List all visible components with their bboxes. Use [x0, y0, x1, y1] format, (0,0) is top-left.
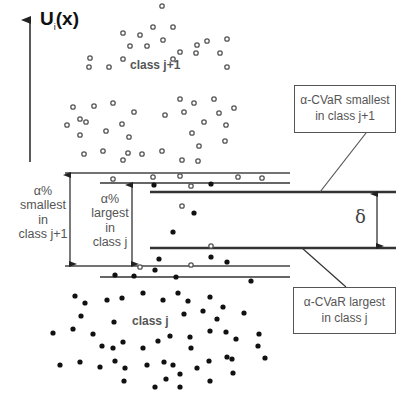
- open-marker: [126, 151, 130, 155]
- filled-marker: [229, 356, 234, 361]
- class-j-label: class j: [132, 314, 169, 328]
- open-marker: [232, 106, 236, 110]
- open-marker: [138, 265, 142, 269]
- filled-marker: [78, 313, 83, 318]
- open-marker: [138, 33, 142, 37]
- filled-marker: [230, 370, 235, 375]
- filled-marker: [72, 293, 77, 298]
- open-marker: [217, 111, 221, 115]
- filled-marker: [151, 182, 156, 187]
- open-marker: [196, 159, 200, 163]
- filled-marker: [233, 336, 238, 341]
- open-marker: [104, 129, 108, 133]
- open-marker: [224, 123, 228, 127]
- open-marker: [111, 101, 115, 105]
- filled-marker: [214, 316, 219, 321]
- filled-marker: [160, 297, 165, 302]
- open-marker: [87, 65, 91, 69]
- filled-marker: [131, 273, 136, 278]
- open-marker: [161, 38, 165, 42]
- open-marker: [128, 44, 132, 48]
- open-marker: [218, 51, 222, 55]
- delta-label: δ: [355, 206, 366, 227]
- filled-marker: [155, 338, 160, 343]
- open-marker: [225, 65, 229, 69]
- open-marker: [195, 43, 199, 47]
- open-marker: [180, 204, 184, 208]
- filled-marker: [208, 181, 213, 186]
- filled-marker: [70, 326, 75, 331]
- open-marker: [78, 133, 82, 137]
- filled-marker: [187, 334, 192, 339]
- open-marker: [120, 122, 124, 126]
- filled-marker: [177, 371, 182, 376]
- filled-marker: [248, 278, 253, 283]
- bottom-box-connector: [302, 248, 346, 287]
- filled-marker: [170, 362, 175, 367]
- open-marker: [189, 263, 193, 267]
- open-marker: [160, 149, 164, 153]
- open-marker: [140, 152, 144, 156]
- open-marker: [127, 135, 131, 139]
- filled-marker: [177, 384, 182, 389]
- open-marker: [121, 158, 125, 162]
- filled-marker: [175, 290, 180, 295]
- filled-marker: [223, 329, 228, 334]
- filled-marker: [144, 362, 149, 367]
- filled-marker: [207, 378, 212, 383]
- filled-marker: [121, 378, 126, 383]
- open-marker: [171, 25, 175, 29]
- outer-span-label: α% smallest in class j+1: [16, 184, 70, 242]
- inner-span-label: α% largest in class j: [88, 192, 132, 250]
- filled-marker: [104, 297, 109, 302]
- filled-marker: [163, 376, 168, 381]
- filled-marker: [112, 358, 117, 363]
- open-marker: [82, 152, 86, 156]
- filled-marker: [57, 362, 62, 367]
- filled-marker: [110, 345, 115, 350]
- open-marker: [111, 177, 115, 181]
- open-marker: [212, 97, 216, 101]
- cvar-largest-box: α-CVaR largest in class j: [293, 287, 396, 334]
- open-marker: [209, 244, 213, 248]
- filled-marker: [262, 355, 267, 360]
- filled-marker: [255, 343, 260, 348]
- open-marker: [205, 39, 209, 43]
- filled-marker: [82, 300, 87, 305]
- open-marker: [178, 50, 182, 54]
- class-j-points: [50, 181, 267, 389]
- filled-marker: [97, 364, 102, 369]
- filled-marker: [161, 359, 166, 364]
- cvar-smallest-box: α-CVaR smallest in class j+1: [294, 85, 396, 133]
- open-marker: [78, 117, 82, 121]
- filled-marker: [140, 290, 145, 295]
- filled-marker: [173, 274, 178, 279]
- filled-marker: [170, 229, 175, 234]
- open-marker: [202, 120, 206, 124]
- filled-marker: [152, 267, 157, 272]
- filled-marker: [111, 319, 116, 324]
- open-marker: [71, 105, 75, 109]
- class-j-plus-1-label: class j+1: [130, 58, 180, 72]
- top-box-connector: [320, 133, 366, 192]
- open-marker: [225, 37, 229, 41]
- open-marker: [163, 113, 167, 117]
- y-axis-title: Ui(x): [40, 8, 79, 32]
- open-marker: [84, 120, 88, 124]
- filled-marker: [220, 304, 225, 309]
- filled-marker: [99, 343, 104, 348]
- open-marker: [197, 144, 201, 148]
- filled-marker: [181, 311, 186, 316]
- filled-marker: [140, 345, 145, 350]
- filled-marker: [208, 254, 213, 259]
- filled-marker: [207, 328, 212, 333]
- open-marker: [65, 123, 69, 127]
- open-marker: [236, 175, 240, 179]
- filled-marker: [200, 308, 205, 313]
- filled-marker: [122, 365, 127, 370]
- filled-marker: [194, 365, 199, 370]
- open-marker: [182, 110, 186, 114]
- open-marker: [88, 56, 92, 60]
- cvar-diagram: Ui(x) class j+1 class j α% smallest in c…: [0, 0, 418, 406]
- filled-marker: [224, 354, 229, 359]
